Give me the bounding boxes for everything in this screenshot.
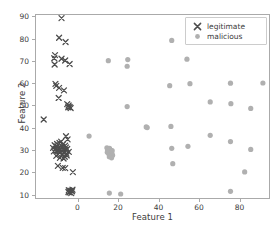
data-point-legitimate (57, 35, 62, 40)
data-point-malicious (242, 169, 247, 174)
data-point-malicious (106, 58, 111, 63)
x-tick-label: 80 (230, 203, 250, 212)
x-tick-mark (199, 199, 200, 202)
data-point-malicious (125, 104, 130, 109)
y-tick-mark (32, 83, 35, 84)
data-point-legitimate (56, 95, 61, 100)
x-tick-label: 0 (68, 203, 88, 212)
data-point-legitimate (70, 170, 75, 175)
data-point-malicious (208, 99, 213, 104)
x-tick-label: 40 (149, 203, 169, 212)
data-point-malicious (169, 38, 174, 43)
data-point-malicious (228, 189, 233, 194)
data-point-malicious (110, 148, 115, 153)
legend-label-legitimate: legitimate (205, 22, 245, 31)
y-tick-mark (32, 39, 35, 40)
data-point-malicious (228, 81, 233, 86)
y-tick-label: 20 (9, 168, 29, 177)
x-tick-mark (118, 199, 119, 202)
legend-x-marker-icon (189, 21, 205, 31)
legend-label-malicious: malicious (205, 32, 243, 41)
x-tick-label: 60 (189, 203, 209, 212)
x-axis-label: Feature 1 (35, 212, 270, 222)
data-point-legitimate (52, 62, 57, 67)
legend: legitimate malicious (185, 17, 267, 45)
y-tick-mark (32, 195, 35, 196)
y-tick-mark (32, 150, 35, 151)
data-point-malicious (248, 106, 253, 111)
data-point-malicious (118, 191, 123, 196)
data-point-malicious (228, 101, 233, 106)
x-tick-label: 20 (108, 203, 128, 212)
data-point-legitimate (59, 16, 64, 21)
data-point-malicious (228, 139, 233, 144)
series-malicious (86, 38, 265, 197)
data-point-legitimate (63, 39, 68, 44)
y-axis-label: Feature 2 (17, 43, 27, 163)
y-tick-mark (32, 128, 35, 129)
data-point-malicious (145, 125, 150, 130)
y-tick-label: 10 (9, 191, 29, 200)
data-point-legitimate (41, 117, 46, 122)
data-point-malicious (260, 80, 265, 85)
data-point-malicious (107, 190, 112, 195)
data-point-malicious (168, 124, 173, 129)
data-point-malicious (125, 57, 130, 62)
data-point-malicious (105, 150, 110, 155)
data-point-malicious (208, 133, 213, 138)
data-point-malicious (185, 144, 190, 149)
data-point-malicious (248, 147, 253, 152)
y-tick-label: 90 (9, 12, 29, 21)
series-legitimate (41, 16, 75, 196)
data-point-malicious (170, 161, 175, 166)
data-point-malicious (86, 133, 91, 138)
data-point-malicious (169, 146, 174, 151)
data-point-legitimate (67, 62, 72, 67)
scatter-plot-figure: 102030405060708090 020406080 Feature 1 F… (0, 0, 278, 231)
x-tick-mark (78, 199, 79, 202)
data-point-malicious (109, 155, 114, 160)
x-tick-mark (240, 199, 241, 202)
legend-item-malicious: malicious (189, 31, 262, 41)
data-point-malicious (184, 57, 189, 62)
legend-circle-marker-icon (189, 31, 205, 41)
x-tick-mark (159, 199, 160, 202)
y-tick-mark (32, 61, 35, 62)
data-point-malicious (125, 64, 130, 69)
y-tick-mark (32, 105, 35, 106)
data-point-legitimate (55, 163, 60, 168)
data-point-malicious (167, 83, 172, 88)
data-point-malicious (187, 81, 192, 86)
y-tick-mark (32, 172, 35, 173)
legend-item-legitimate: legitimate (189, 21, 262, 31)
y-tick-mark (32, 16, 35, 17)
